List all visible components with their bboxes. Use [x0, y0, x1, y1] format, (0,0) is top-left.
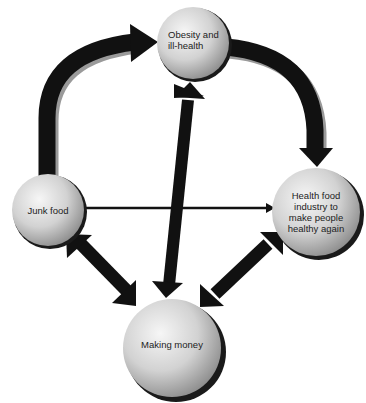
- label-health-food-text: Health food industry to make people heal…: [288, 190, 345, 234]
- arrow-money-healthfood: [200, 232, 283, 307]
- arrow-money-obesity: [152, 82, 205, 298]
- label-health-food: Health food industry to make people heal…: [276, 186, 356, 238]
- label-making-money: Making money: [128, 334, 216, 354]
- arrow-money-junkfood: [66, 234, 136, 306]
- label-junk-food: Junk food: [12, 200, 84, 220]
- label-obesity: Obesity and ill-health: [158, 20, 228, 60]
- label-obesity-text: Obesity and ill-health: [168, 29, 219, 51]
- arrowhead-icon: [152, 281, 183, 298]
- arrow-obesity-to-healthfood: [226, 47, 333, 167]
- label-making-money-text: Making money: [141, 339, 203, 350]
- arrowhead-icon: [299, 148, 333, 167]
- arrow-junkfood-to-obesity: [47, 24, 158, 181]
- label-junk-food-text: Junk food: [27, 205, 68, 216]
- arrowhead-icon: [130, 24, 158, 62]
